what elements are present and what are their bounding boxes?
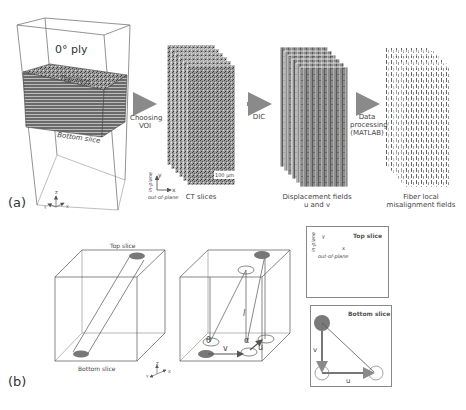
cube1-top-dot xyxy=(129,253,145,260)
voi-block xyxy=(23,64,127,137)
axis-b-y: Y xyxy=(146,373,148,381)
axis-b-x: X xyxy=(168,368,171,376)
ct-slices-stack xyxy=(167,45,235,185)
cube1-bottom-dot xyxy=(73,351,89,358)
cube-1 xyxy=(55,250,165,361)
step-label-choosing-voi: Choosing VOI xyxy=(130,114,160,130)
axis-a-z: Z xyxy=(55,189,58,197)
fiber-misalignment-stack xyxy=(385,47,451,187)
step-label-dic: DIC xyxy=(248,113,270,121)
bottom-u-label: u xyxy=(346,377,350,385)
bottom-v-label: v xyxy=(313,346,317,354)
v-label: v xyxy=(223,345,228,353)
bottom-slice-box-title: Bottom slice xyxy=(348,310,390,318)
displacement-stack xyxy=(280,47,348,187)
theta-label: θ xyxy=(206,337,211,345)
cube-2 xyxy=(180,250,290,361)
fiber-caption: Fiber local misalignment fields xyxy=(386,193,456,209)
top-slice-axis-x: x xyxy=(342,244,345,252)
top-slice-in-plane: in-plane xyxy=(309,232,317,252)
axis-a-y: Y xyxy=(44,204,46,212)
ct-caption: CT slices xyxy=(181,193,221,201)
u-label: u xyxy=(258,344,263,352)
cube1-bottom-slice-label: Bottom slice xyxy=(78,365,115,373)
axis-a-x: X xyxy=(66,203,69,211)
axis-b-z: Z xyxy=(156,360,159,368)
ct-in-plane: in-plane xyxy=(146,172,154,192)
panel-a-label: (a) xyxy=(8,195,26,210)
top-slice-axis-y: y xyxy=(322,232,325,240)
axis-triad-a xyxy=(48,196,64,207)
panel-b-label: (b) xyxy=(8,374,26,389)
cube1-top-slice-label: Top slice xyxy=(110,242,135,250)
displacement-caption: Displacement fields u and v xyxy=(281,193,353,209)
top-slice-box-title: Top slice xyxy=(353,232,382,240)
l-label: l xyxy=(243,310,245,318)
alpha-label: α xyxy=(244,337,249,345)
ct-out-of-plane: out-of-plane xyxy=(148,193,178,201)
ct-axis-y: y xyxy=(158,171,162,179)
step-label-data-processing: Data processing (MATLAB) xyxy=(350,113,384,137)
cube2-top-dot xyxy=(254,251,270,259)
scale-bar-label: 100 µm xyxy=(214,171,235,179)
specimen-title: 0° ply xyxy=(55,46,88,54)
top-slice-out-of-plane: out-of-plane xyxy=(318,252,348,260)
